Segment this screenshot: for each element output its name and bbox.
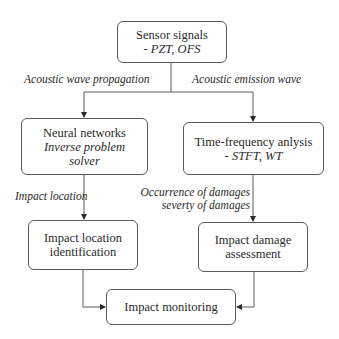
node-title: Time-frequency anlysis bbox=[195, 135, 313, 149]
node-title: Sensor signals bbox=[136, 28, 208, 42]
node-time-frequency-analysis: Time-frequency anlysis - STFT, WT bbox=[183, 122, 324, 175]
node-subtitle: - STFT, WT bbox=[225, 149, 283, 163]
edge-label-occurrence-of-damages: Occurrence of damages bbox=[141, 186, 250, 199]
node-line-2: assessment bbox=[225, 247, 281, 261]
node-subtitle-1: Inverse problem bbox=[44, 140, 125, 154]
node-sensor-signals: Sensor signals - PZT, OFS bbox=[117, 21, 227, 63]
node-impact-monitoring: Impact monitoring bbox=[106, 289, 236, 325]
node-subtitle: - PZT, OFS bbox=[143, 42, 200, 56]
edge-label-acoustic-wave-propagation: Acoustic wave propagation bbox=[24, 73, 149, 86]
edge-label-severity-of-damages: severty of damages bbox=[162, 199, 250, 212]
node-title: Impact monitoring bbox=[124, 300, 217, 314]
node-line-1: Impact damage bbox=[215, 233, 292, 247]
edge-label-impact-location: Impact location bbox=[15, 190, 88, 203]
node-title: Neural networks bbox=[43, 126, 126, 140]
edge-label-acoustic-emission-wave: Acoustic emission wave bbox=[192, 73, 301, 86]
node-subtitle-2: solver bbox=[69, 154, 100, 168]
node-line-1: Impact location bbox=[44, 231, 122, 245]
node-line-2: identification bbox=[50, 245, 117, 259]
node-impact-damage-assessment: Impact damage assessment bbox=[198, 222, 308, 272]
node-impact-location-identification: Impact location identification bbox=[28, 220, 138, 270]
node-neural-networks: Neural networks Inverse problem solver bbox=[21, 118, 148, 175]
